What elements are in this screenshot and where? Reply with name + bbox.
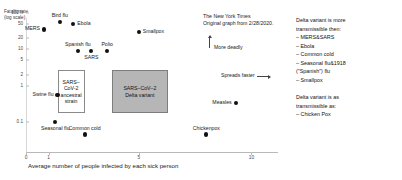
legend-block2-items: – Chicken Pox (296, 110, 400, 119)
data-point-label: Smallpox (143, 29, 164, 34)
data-point (105, 49, 109, 53)
highlight-box-delta-variant: SARS–CoV–2 Delta variant (112, 70, 168, 112)
chart-root: The New York Times Original graph from 2… (0, 0, 402, 180)
data-point (83, 132, 87, 136)
x-axis-line (26, 152, 278, 153)
legend-item: – Seasonal flu&1918 (296, 59, 400, 68)
data-point (71, 22, 75, 26)
data-point (204, 132, 208, 136)
spreads-faster-arrow-icon (257, 76, 270, 77)
legend-item: – MERS&SARS (296, 33, 400, 42)
x-tick-label: 10 (249, 156, 254, 161)
legend-block1-heading-line2: transmissible then: (296, 25, 400, 34)
legend-item: – Smallpox (296, 76, 400, 85)
y-tick-label: 1 (20, 83, 23, 88)
x-axis-title: Average number of people infected by eac… (28, 163, 178, 169)
legend-item: – Common cold (296, 50, 400, 59)
y-tick-label: 2 (20, 72, 23, 77)
data-point-label: Common cold (69, 125, 101, 130)
more-deadly-arrow-icon (209, 36, 210, 48)
data-point (234, 101, 238, 105)
data-point-label: Polio (101, 42, 113, 47)
data-point-label: MERS (25, 27, 40, 32)
data-point-label: Chickenpox (193, 125, 220, 130)
legend-block1-heading: Delta variant is more transmissible then… (296, 16, 400, 33)
data-point-label: Bird flu (52, 13, 68, 18)
data-point-label: Ebola (77, 21, 90, 26)
y-tick-label: 5 (20, 58, 23, 63)
y-tick-label: 20 (18, 36, 23, 41)
legend-item: – Chicken Pox (296, 110, 400, 119)
box-delta-line2: Delta variant (125, 92, 154, 98)
x-tick-label: 0 (25, 156, 28, 161)
y-tick-label: 0.1 (17, 120, 23, 125)
legend-item: – Ebola (296, 42, 400, 51)
data-point (53, 120, 57, 124)
legend-panel: Delta variant is more transmissible then… (296, 16, 400, 119)
x-tick-label: 1 (47, 156, 50, 161)
y-tick-label: 100% (11, 11, 23, 16)
x-tick-label: 5 (137, 156, 140, 161)
data-point (58, 20, 62, 24)
data-point-label: Spanish flu (65, 42, 91, 47)
data-point (42, 27, 46, 31)
y-tick-label: 50 (18, 22, 23, 27)
box-ancestral-line4: strain (65, 98, 78, 104)
data-point-label: SARS (84, 55, 98, 60)
data-point-label: Measles (212, 100, 231, 105)
y-axis-title-note: (log scale) (4, 15, 28, 21)
legend-block2-heading-line2: transmissible as: (296, 102, 400, 111)
legend-block2-heading: Delta variant is as transmissible as: (296, 93, 400, 110)
data-point (89, 49, 93, 53)
highlight-box-ancestral-strain: SARS– CoV-2 ancestral strain (58, 70, 85, 112)
data-point (76, 49, 80, 53)
legend-item: ("Spanish") flu (296, 67, 400, 76)
more-deadly-label: More deadly (214, 45, 243, 50)
data-point (55, 93, 59, 97)
y-tick-label: 10 (18, 47, 23, 52)
spreads-faster-label: Spreads faster (221, 73, 255, 78)
data-point (137, 30, 141, 34)
data-point-label: Seasonal flu (41, 126, 70, 131)
legend-block1-heading-line1: Delta variant is more (296, 16, 400, 25)
legend-block1-items: – MERS&SARS– Ebola– Common cold– Seasona… (296, 33, 400, 84)
legend-block2-heading-line1: Delta variant is as (296, 93, 400, 102)
data-point-label: Swine flu (33, 92, 54, 97)
